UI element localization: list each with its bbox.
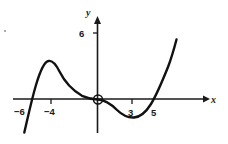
x-tick-label-minus-6: −6 <box>14 106 25 117</box>
y-axis-arrowhead <box>94 16 101 24</box>
y-axis-label: y <box>85 7 91 18</box>
cubic-graph-svg: x y −6 −4 3 5 6 <box>0 0 228 144</box>
artifact-speck <box>4 30 6 32</box>
cubic-curve <box>24 40 176 133</box>
x-tick-label-minus-4: −4 <box>44 106 56 117</box>
x-axis-label: x <box>210 94 216 105</box>
graph-figure: x y −6 −4 3 5 6 <box>0 0 228 144</box>
x-axis-arrowhead <box>203 96 210 103</box>
x-tick-label-5: 5 <box>151 107 157 118</box>
y-tick-label-6: 6 <box>79 28 84 39</box>
x-tick-label-3: 3 <box>128 107 133 118</box>
